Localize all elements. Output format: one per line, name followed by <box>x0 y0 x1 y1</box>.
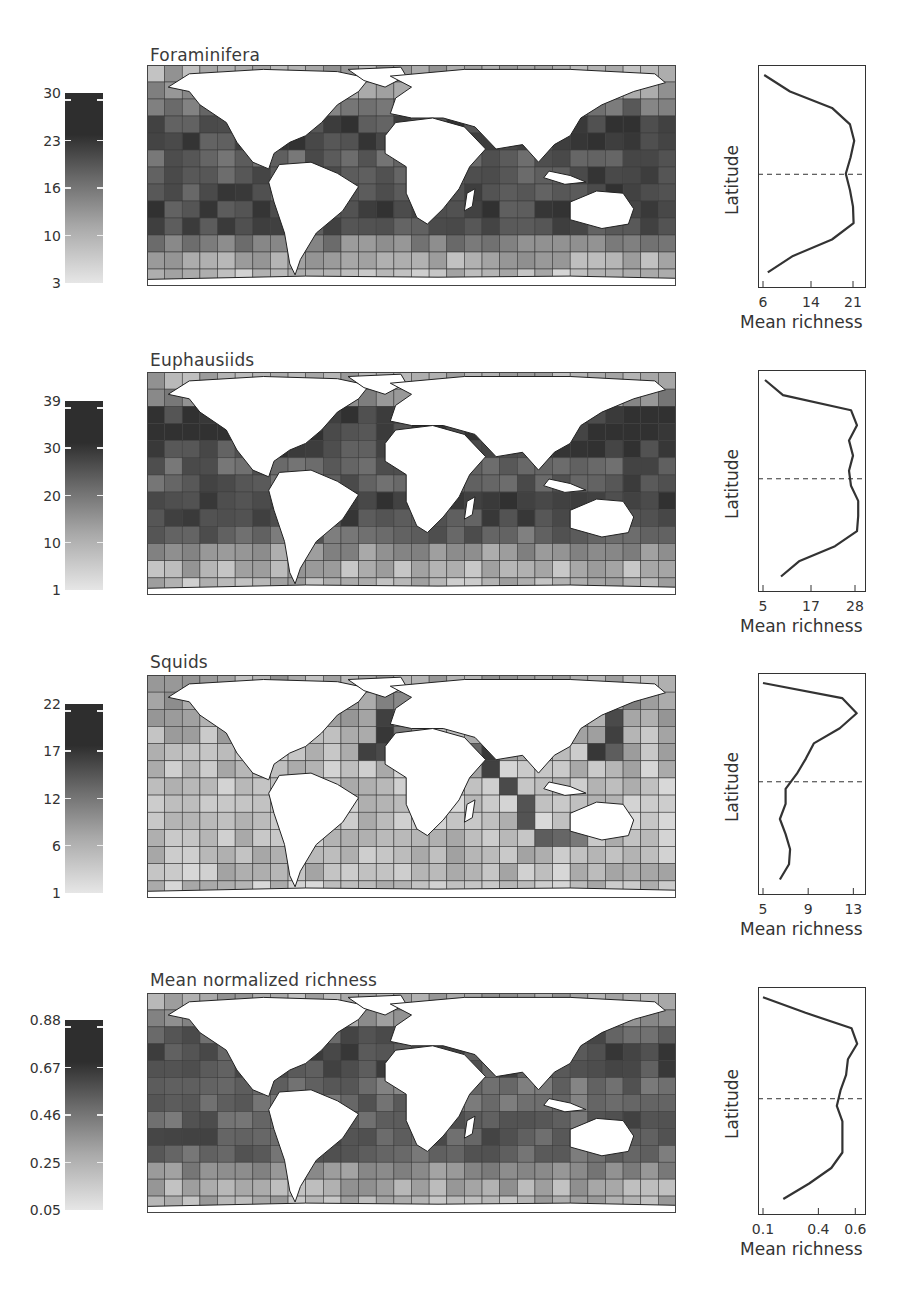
richness-profile-line <box>763 997 857 1199</box>
profile-xtick-label: 6 <box>759 294 768 310</box>
colorbar-tick-label: 16 <box>43 180 61 196</box>
profile-xtick-label: 0.6 <box>844 1221 866 1237</box>
richness-map <box>147 675 676 898</box>
colorbar-tick-label: 1 <box>52 582 61 598</box>
colorbar-tick-label: 0.46 <box>30 1107 61 1123</box>
profile-xtick-label: 0.1 <box>752 1221 774 1237</box>
profile-line-chart <box>758 370 866 600</box>
colorbar-tick-label: 0.88 <box>30 1012 61 1028</box>
profile-xtick-label: 5 <box>759 901 768 917</box>
profile-x-axis-label: Mean richness <box>740 919 863 939</box>
colorbar-tick-label: 17 <box>43 743 61 759</box>
richness-profile-line <box>765 380 858 577</box>
colorbar-tick-label: 12 <box>43 791 61 807</box>
profile-line-chart <box>758 65 866 296</box>
colorbar <box>65 93 103 283</box>
profile-xtick-label: 14 <box>802 294 820 310</box>
colorbar-tick-label: 1 <box>52 885 61 901</box>
profile-xtick-label: 17 <box>802 598 820 614</box>
colorbar-tick-label: 6 <box>52 838 61 854</box>
landmass <box>147 585 676 595</box>
profile-xtick-label: 0.4 <box>807 1221 829 1237</box>
richness-map <box>147 65 676 286</box>
landmass <box>147 888 676 898</box>
profile-line-chart <box>758 673 866 903</box>
panel-title: Euphausiids <box>150 350 254 370</box>
landmass <box>147 276 676 286</box>
profile-xtick-label: 13 <box>844 901 862 917</box>
colorbar-tick-label: 10 <box>43 228 61 244</box>
richness-profile-line <box>764 75 854 272</box>
colorbar-tick-label: 0.05 <box>30 1202 61 1218</box>
colorbar <box>65 1020 103 1210</box>
profile-x-axis-label: Mean richness <box>740 616 863 636</box>
profile-line-chart <box>758 987 866 1223</box>
colorbar-tick-label: 0.67 <box>30 1060 61 1076</box>
colorbar-tick-label: 39 <box>43 393 61 409</box>
profile-y-axis-label: Latitude <box>722 449 742 519</box>
profile-xtick-label: 21 <box>844 294 862 310</box>
panel-title: Foraminifera <box>150 45 260 65</box>
world-map-grid <box>147 675 676 898</box>
colorbar-tick-label: 23 <box>43 133 61 149</box>
colorbar-tick-label: 30 <box>43 440 61 456</box>
colorbar-tick-label: 3 <box>52 275 61 291</box>
latitude-profile-plot <box>758 673 866 895</box>
richness-map <box>147 372 676 595</box>
colorbar-tick-label: 10 <box>43 535 61 551</box>
world-map-grid <box>147 993 676 1213</box>
panel-title: Squids <box>150 652 208 672</box>
colorbar <box>65 704 103 893</box>
richness-map <box>147 993 676 1213</box>
profile-xtick-label: 9 <box>804 901 813 917</box>
profile-y-axis-label: Latitude <box>722 752 742 822</box>
landmass <box>147 1203 676 1213</box>
profile-y-axis-label: Latitude <box>722 1069 742 1139</box>
profile-xtick-label: 5 <box>759 598 768 614</box>
panel-title: Mean normalized richness <box>150 970 377 990</box>
profile-x-axis-label: Mean richness <box>740 1239 863 1259</box>
latitude-profile-plot <box>758 370 866 592</box>
latitude-profile-plot <box>758 65 866 288</box>
profile-x-axis-label: Mean richness <box>740 312 863 332</box>
colorbar-tick-label: 20 <box>43 488 61 504</box>
profile-xtick-label: 28 <box>846 598 864 614</box>
colorbar-tick-label: 22 <box>43 696 61 712</box>
profile-y-axis-label: Latitude <box>722 145 742 215</box>
world-map-grid <box>147 372 676 595</box>
richness-profile-line <box>763 683 857 880</box>
latitude-profile-plot <box>758 987 866 1215</box>
colorbar-tick-label: 30 <box>43 85 61 101</box>
colorbar-tick-label: 0.25 <box>30 1155 61 1171</box>
colorbar <box>65 401 103 590</box>
world-map-grid <box>147 65 676 286</box>
